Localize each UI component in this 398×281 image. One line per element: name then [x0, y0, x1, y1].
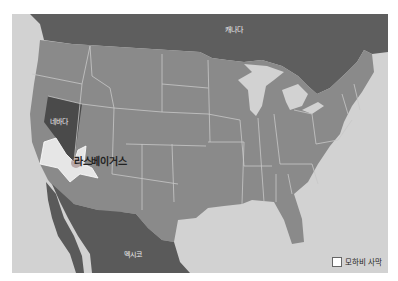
legend-label: 모하비 사막 [345, 256, 382, 267]
map-graphic [12, 14, 388, 273]
map-frame: 캐나다 네바다 라스베이거스 멕시코 모하비 사막 [12, 14, 388, 273]
legend: 모하비 사막 [332, 256, 382, 267]
legend-swatch-mojave [332, 257, 342, 267]
label-las-vegas: 라스베이거스 [74, 153, 126, 168]
label-canada: 캐나다 [225, 24, 243, 34]
label-nevada: 네바다 [50, 116, 68, 126]
label-mexico: 멕시코 [124, 249, 142, 259]
